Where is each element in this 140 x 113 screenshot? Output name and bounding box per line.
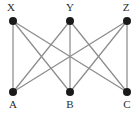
graph-vertex-label-a: A bbox=[9, 98, 17, 110]
graph-vertex-label-z: Z bbox=[123, 1, 130, 13]
graph-vertex-z bbox=[123, 17, 131, 25]
graph-vertex-b bbox=[66, 88, 74, 96]
graph-vertex-c bbox=[123, 88, 131, 96]
graph-vertex-label-b: B bbox=[66, 98, 73, 110]
graph-vertex-label-c: C bbox=[123, 98, 130, 110]
graph-vertex-label-y: Y bbox=[66, 1, 74, 13]
graph-vertex-x bbox=[9, 17, 17, 25]
graph-vertex-label-x: X bbox=[7, 1, 15, 13]
bipartite-graph-figure: XYZABC bbox=[0, 0, 140, 113]
graph-vertex-y bbox=[66, 17, 74, 25]
graph-vertex-a bbox=[9, 88, 17, 96]
graph-canvas: XYZABC bbox=[0, 0, 140, 113]
edge-layer bbox=[13, 21, 127, 92]
